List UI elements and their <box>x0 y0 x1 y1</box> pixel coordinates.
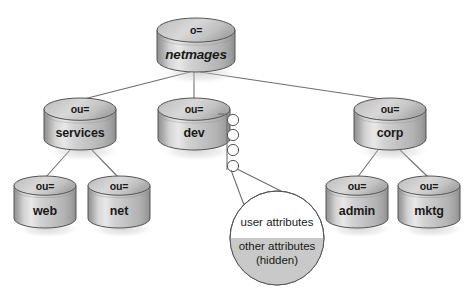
bubble-connector-right <box>237 169 283 192</box>
node-net[interactable] <box>88 176 150 228</box>
node-admin[interactable] <box>326 176 388 228</box>
node-top-net <box>88 176 150 195</box>
node-top-mktg <box>398 176 460 195</box>
node-services[interactable] <box>44 98 116 150</box>
entry-node-3[interactable] <box>227 144 238 155</box>
node-corp[interactable] <box>354 98 426 150</box>
node-top-services <box>44 98 116 120</box>
attribute-bubble-group <box>230 169 324 285</box>
node-web[interactable] <box>14 176 76 228</box>
node-mktg[interactable] <box>398 176 460 228</box>
entry-node-1[interactable] <box>227 114 238 125</box>
node-top-corp <box>354 98 426 120</box>
node-top-root <box>157 18 235 42</box>
diagram-canvas <box>0 0 466 292</box>
entry-node-4[interactable] <box>227 160 238 171</box>
node-top-web <box>14 176 76 195</box>
node-root[interactable] <box>157 18 235 72</box>
bubble-connector-left <box>231 170 244 205</box>
node-top-dev <box>158 98 230 120</box>
node-top-admin <box>326 176 388 195</box>
node-dev[interactable] <box>158 98 230 150</box>
entry-node-2[interactable] <box>227 129 238 140</box>
